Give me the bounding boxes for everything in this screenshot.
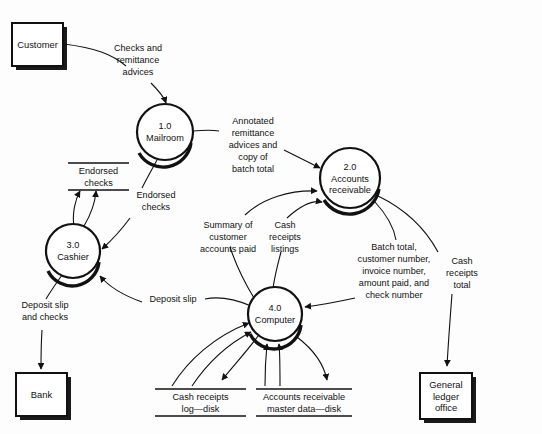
flow-label-endorsed-checks: Endorsed checks xyxy=(137,190,176,212)
accounts-receivable-number: 2.0 xyxy=(344,162,357,172)
mailroom-number: 1.0 xyxy=(159,121,172,131)
annotated-line2: remittance xyxy=(232,128,274,138)
flow-label-deposit-slip: Deposit slip xyxy=(149,294,196,304)
flow-label-cash-receipts-listings: Cash receipts listings xyxy=(269,220,301,254)
external-entity-customer[interactable]: Customer xyxy=(12,23,67,70)
flow-line-listings-to-accounts-receivable xyxy=(287,202,322,218)
annotated-line5: batch total xyxy=(232,164,274,174)
flow-line-endorsed-store-to-cashier xyxy=(84,191,96,226)
customer-label: Customer xyxy=(17,39,58,50)
batch-line4: amount paid, and xyxy=(359,278,429,288)
external-entity-general-ledger-office[interactable]: General ledger office xyxy=(420,373,476,423)
flow-label-annotated-remittance-advices: Annotated remittance advices and copy of… xyxy=(229,116,278,174)
computer-circle xyxy=(248,287,302,341)
flow-label-summary-of-customer-accounts-paid: Summary of customer accounts paid xyxy=(200,220,256,254)
batch-line1: Batch total, xyxy=(371,242,417,252)
cashier-name: Cashier xyxy=(57,252,89,262)
flow-line-ar-master-to-computer-a xyxy=(265,344,267,386)
flow-line-deposit-to-bank xyxy=(41,330,42,369)
external-entity-bank[interactable]: Bank xyxy=(16,373,71,420)
general-ledger-office-label-line3: office xyxy=(435,402,457,413)
batch-line5: check number xyxy=(365,290,422,300)
data-flow-diagram: Customer Bank General ledger office Endo… xyxy=(0,0,542,434)
bank-label: Bank xyxy=(31,389,53,400)
batch-line3: invoice number, xyxy=(362,266,426,276)
cashier-circle xyxy=(46,224,100,278)
process-mailroom[interactable]: 1.0 Mailroom xyxy=(137,104,193,167)
listings-line3: listings xyxy=(271,244,299,254)
crt-line1: Cash xyxy=(451,256,472,266)
process-cashier[interactable]: 3.0 Cashier xyxy=(46,224,100,286)
flow-line-mailroom-to-annotated-label xyxy=(193,130,219,131)
checks-remittance-line2: remittance xyxy=(117,55,159,65)
flow-line-cash-receipts-log-to-computer-a xyxy=(172,323,249,386)
cash-receipts-log-store-label-line1: Cash receipts xyxy=(172,392,229,402)
mailroom-name: Mailroom xyxy=(146,133,184,143)
flow-line-endorsed-to-cashier xyxy=(102,218,130,249)
flow-line-computer-to-summary-label xyxy=(230,247,254,298)
data-store-accounts-receivable-master[interactable]: Accounts receivable master data—disk xyxy=(256,389,352,416)
ar-master-store-label-line2: master data—disk xyxy=(267,404,341,414)
flow-line-computer-to-cash-receipts-log xyxy=(222,336,258,380)
summary-line2: customer xyxy=(209,232,246,242)
flow-line-cashier-to-endorsed-store xyxy=(73,191,80,226)
process-accounts-receivable[interactable]: 2.0 Accounts receivable xyxy=(320,148,380,214)
flow-label-batch-total-details: Batch total, customer number, invoice nu… xyxy=(358,242,431,300)
general-ledger-office-label-line1: General xyxy=(429,379,462,390)
endorsed-checks-store-label-line1: Endorsed xyxy=(79,166,118,176)
deposit-checks-line2: and checks xyxy=(22,312,68,322)
deposit-checks-line1: Deposit slip xyxy=(21,300,68,310)
flow-line-ar-master-to-computer-b xyxy=(279,344,280,386)
accounts-receivable-name-line2: receivable xyxy=(329,185,371,195)
deposit-slip-label: Deposit slip xyxy=(149,294,196,304)
flow-line-annotated-to-accounts-receivable xyxy=(284,150,320,168)
flow-label-checks-and-remittance-advices: Checks and remittance advices xyxy=(114,43,162,77)
flow-line-crt-to-general-ledger-office xyxy=(447,294,452,366)
listings-line1: Cash xyxy=(274,220,295,230)
flow-line-summary-to-accounts-receivable xyxy=(245,191,317,215)
crt-line2: receipts xyxy=(446,268,478,278)
cash-receipts-log-store-label-line2: log—disk xyxy=(182,404,220,414)
flow-line-computer-to-listings-label xyxy=(273,252,281,288)
ar-master-store-label-line1: Accounts receivable xyxy=(263,392,345,402)
general-ledger-office-label-line2: ledger xyxy=(433,391,459,402)
flow-line-computer-to-ar-master xyxy=(297,337,327,380)
summary-line3: accounts paid xyxy=(200,244,256,254)
batch-line2: customer number, xyxy=(358,254,431,264)
annotated-line1: Annotated xyxy=(232,116,273,126)
flow-line-computer-to-deposit-slip-label xyxy=(205,298,251,306)
listings-line2: receipts xyxy=(269,232,301,242)
diagram-canvas: Customer Bank General ledger office Endo… xyxy=(0,0,542,434)
flow-line-accounts-receivable-to-batch-label xyxy=(375,202,396,240)
mailroom-circle xyxy=(137,104,193,160)
cashier-number: 3.0 xyxy=(67,240,80,250)
flow-line-checks-to-mailroom xyxy=(151,83,166,103)
endorsed-checks-store-label-line2: checks xyxy=(84,178,113,188)
checks-remittance-line3: advices xyxy=(123,67,154,77)
annotated-line3: advices and xyxy=(229,140,278,150)
data-store-endorsed-checks[interactable]: Endorsed checks xyxy=(68,163,129,190)
summary-line1: Summary of xyxy=(203,220,252,230)
data-store-cash-receipts-log[interactable]: Cash receipts log—disk xyxy=(155,389,246,416)
computer-number: 4.0 xyxy=(269,303,282,313)
flow-label-cash-receipts-total: Cash receipts total xyxy=(446,256,478,290)
endorsed-flow-line1: Endorsed xyxy=(137,190,176,200)
annotated-line4: copy of xyxy=(238,152,268,162)
computer-name: Computer xyxy=(255,315,295,325)
accounts-receivable-name-line1: Accounts xyxy=(331,174,369,184)
flow-label-deposit-slip-and-checks: Deposit slip and checks xyxy=(21,300,68,322)
process-computer[interactable]: 4.0 Computer xyxy=(248,287,302,349)
flow-line-deposit-slip-to-cashier xyxy=(100,276,142,302)
checks-remittance-line1: Checks and xyxy=(114,43,162,53)
flow-line-cash-receipts-log-to-computer-b xyxy=(192,332,251,386)
crt-line3: total xyxy=(453,280,470,290)
endorsed-flow-line2: checks xyxy=(142,202,171,212)
flow-line-batch-to-computer xyxy=(305,298,355,307)
